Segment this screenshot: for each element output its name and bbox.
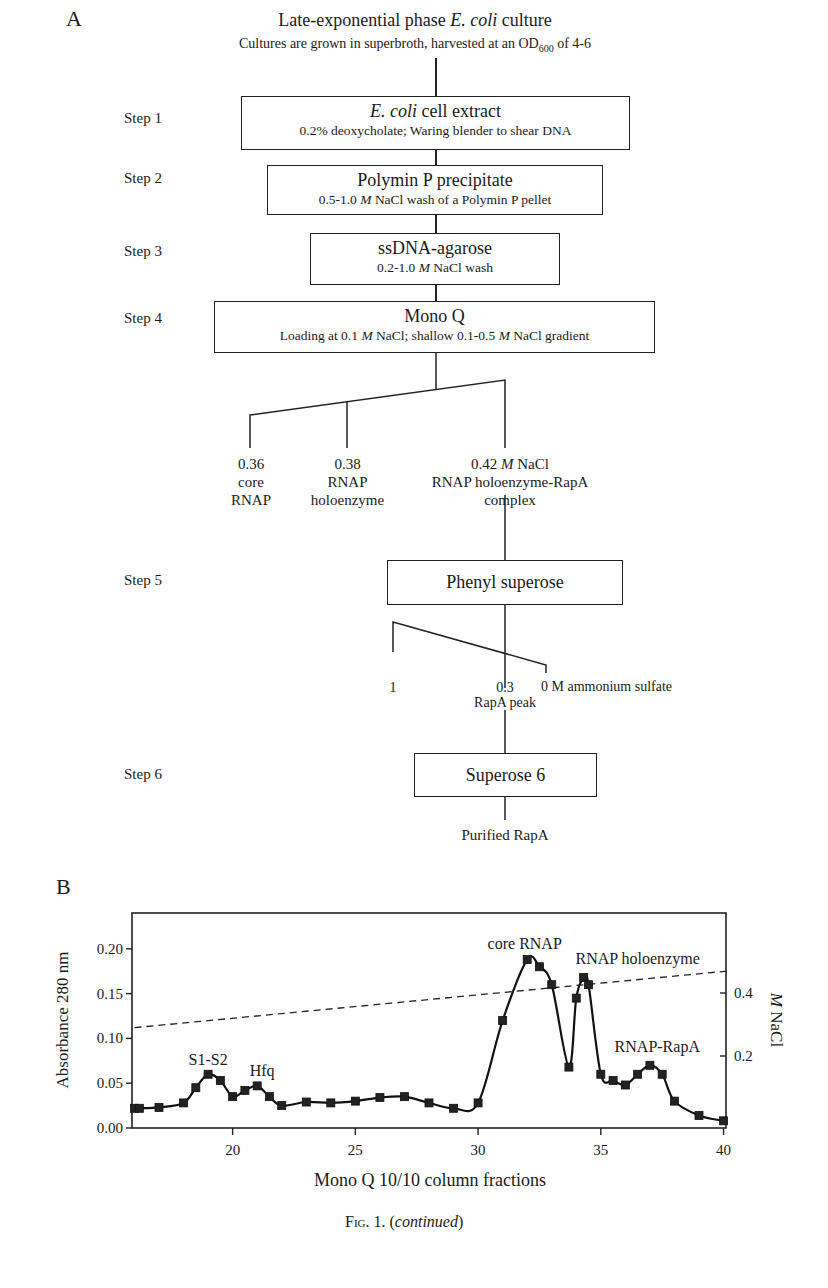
data-point-marker	[265, 1093, 273, 1101]
data-point-marker	[695, 1111, 703, 1119]
ammonium-sulfate-1: 1	[383, 679, 403, 697]
step-2-label: Step 2	[124, 170, 162, 187]
data-point-marker	[229, 1093, 237, 1101]
data-point-marker	[548, 981, 556, 989]
data-point-marker	[646, 1061, 654, 1069]
y2-tick-label: 0.2	[734, 1048, 753, 1064]
data-point-marker	[376, 1094, 384, 1102]
data-point-marker	[720, 1117, 728, 1125]
step-4-label: Step 4	[124, 310, 162, 327]
y-tick-label: 0.10	[97, 1030, 123, 1046]
data-point-marker	[499, 1017, 507, 1025]
rapa-peak-label: RapA peak	[455, 694, 555, 712]
step-1-label: Step 1	[124, 110, 162, 127]
data-point-marker	[180, 1099, 188, 1107]
peak-annotation: core RNAP	[488, 935, 562, 952]
data-point-marker	[523, 956, 531, 964]
step-3-label: Step 3	[124, 243, 162, 260]
data-point-marker	[572, 994, 580, 1002]
step-6-label: Step 6	[124, 766, 162, 783]
step-3-box: ssDNA-agarose 0.2-1.0 M NaCl wash	[310, 233, 560, 285]
x-tick-label: 20	[225, 1142, 240, 1158]
peak-annotation: S1-S2	[189, 1051, 228, 1068]
data-point-marker	[192, 1084, 200, 1092]
x-tick-label: 25	[348, 1142, 363, 1158]
panel-b-label: B	[56, 874, 71, 900]
connector-line	[435, 58, 437, 96]
data-point-marker	[216, 1077, 224, 1085]
data-point-marker	[278, 1102, 286, 1110]
peak-annotation: RNAP-RapA	[615, 1038, 701, 1056]
data-point-marker	[474, 1099, 482, 1107]
connector-line	[435, 150, 437, 165]
step-2-box: Polymin P precipitate 0.5-1.0 M NaCl was…	[267, 165, 603, 215]
data-point-marker	[400, 1093, 408, 1101]
data-point-marker	[658, 1070, 666, 1078]
y-tick-label: 0.20	[97, 941, 123, 957]
data-point-marker	[609, 1077, 617, 1085]
x-axis-label: Mono Q 10/10 column fractions	[230, 1170, 630, 1191]
connector-line	[435, 285, 437, 301]
data-point-marker	[585, 981, 593, 989]
peak-annotation: RNAP holoenzyme	[575, 950, 699, 968]
data-point-marker	[155, 1103, 163, 1111]
data-point-marker	[670, 1097, 678, 1105]
culture-title: Late-exponential phase E. coli culture	[220, 10, 610, 31]
panel-a-label: A	[66, 6, 82, 32]
data-point-marker	[130, 1104, 138, 1112]
culture-subtitle: Cultures are grown in superbroth, harves…	[170, 36, 660, 54]
x-tick-label: 30	[471, 1142, 486, 1158]
data-point-marker	[204, 1070, 212, 1078]
data-point-marker	[450, 1104, 458, 1112]
data-point-marker	[135, 1104, 143, 1112]
data-point-marker	[425, 1099, 433, 1107]
ammonium-sulfate-0: 0 M ammonium sulfate	[541, 679, 672, 695]
x-tick-label: 40	[716, 1142, 731, 1158]
purified-rapa-label: Purified RapA	[440, 826, 570, 844]
step-5-box: Phenyl superose	[387, 560, 623, 605]
data-point-marker	[580, 974, 588, 982]
step-1-box: E. coli cell extract 0.2% deoxycholate; …	[241, 96, 630, 150]
y2-tick-label: 0.4	[734, 985, 753, 1001]
step-6-box: Superose 6	[414, 753, 597, 797]
data-point-marker	[621, 1081, 629, 1089]
y-tick-label: 0.05	[97, 1075, 123, 1091]
data-point-marker	[302, 1098, 310, 1106]
step-4-box: Mono Q Loading at 0.1 M NaCl; shallow 0.…	[214, 301, 655, 353]
y2-axis-label: M NaCl	[766, 960, 786, 1080]
data-point-marker	[241, 1086, 249, 1094]
data-point-marker	[634, 1070, 642, 1078]
y-tick-label: 0.00	[97, 1120, 123, 1136]
a280-curve	[134, 956, 723, 1121]
y-tick-label: 0.15	[97, 986, 123, 1002]
connector-line	[435, 215, 437, 233]
peak-annotation: Hfq	[250, 1062, 275, 1080]
figure-caption: Fig. 1. (continued)	[345, 1213, 463, 1231]
data-point-marker	[597, 1070, 605, 1078]
branch-core-rnap: 0.36 core RNAP	[216, 455, 286, 509]
y-axis-label: Absorbance 280 nm	[53, 945, 73, 1095]
data-point-marker	[565, 1063, 573, 1071]
data-point-marker	[351, 1097, 359, 1105]
x-tick-label: 35	[593, 1142, 608, 1158]
branch-holoenzyme-rapa-complex: 0.42 M NaCl RNAP holoenzyme-RapA complex	[400, 455, 620, 509]
branch-rnap-holoenzyme: 0.38 RNAP holoenzyme	[300, 455, 395, 509]
data-point-marker	[253, 1082, 261, 1090]
step-5-label: Step 5	[124, 572, 162, 589]
data-point-marker	[535, 963, 543, 971]
plot-frame	[132, 913, 726, 1128]
nacl-gradient-line	[134, 971, 728, 1028]
data-point-marker	[327, 1099, 335, 1107]
